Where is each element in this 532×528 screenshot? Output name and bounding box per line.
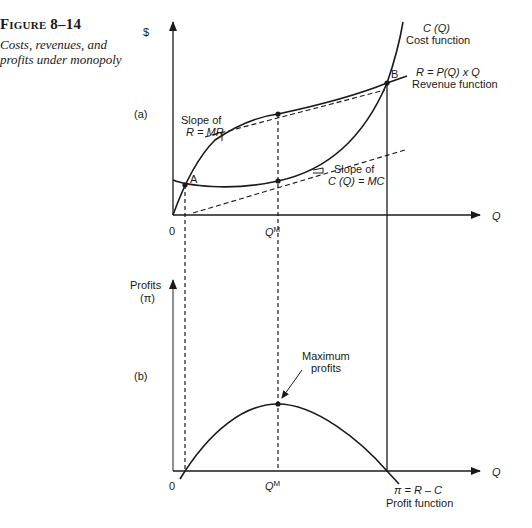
point-b-dot — [384, 80, 389, 85]
revenue-curve-desc: Revenue function — [412, 78, 498, 90]
panel-a: $ Q (a) 0 QM A B C (Q) Cost function R =… — [134, 22, 501, 471]
panel-a-x-axis-label: Q — [492, 210, 501, 222]
mr-note-line2: R = MR — [186, 126, 224, 138]
profit-curve-name: π = R – C — [394, 484, 442, 496]
revenue-curve — [173, 76, 407, 215]
monopoly-diagram: $ Q (a) 0 QM A B C (Q) Cost function R =… — [0, 0, 532, 528]
panel-b-x-axis-label: Q — [492, 466, 501, 478]
panel-b-origin-label: 0 — [169, 480, 175, 492]
panel-a-y-axis-label: $ — [143, 26, 149, 38]
mr-tangent-line — [205, 90, 385, 137]
panel-b-qm-label: QM — [265, 479, 281, 492]
mc-note-line2: C (Q) = MC — [328, 175, 385, 187]
panel-a-label: (a) — [134, 108, 147, 120]
max-profit-arrow — [282, 370, 302, 398]
mr-note-line1: Slope of — [181, 114, 222, 126]
revenue-curve-name: R = P(Q) x Q — [416, 66, 480, 78]
point-b-label: B — [391, 68, 398, 80]
panel-b-y-axis-label-line1: Profits — [130, 279, 162, 291]
mc-note-line1: Slope of — [334, 163, 375, 175]
panel-b: Profits (π) (b) Q 0 QM Maximum profits π… — [130, 279, 501, 509]
max-profit-note-line1: Maximum — [302, 350, 350, 362]
point-a-label: A — [190, 173, 198, 185]
max-profit-dot — [275, 401, 280, 406]
cost-curve-name: C (Q) — [423, 22, 450, 34]
panel-b-y-axis-label-line2: (π) — [140, 292, 155, 304]
cost-curve-desc: Cost function — [406, 34, 470, 46]
revenue-qm-dot — [275, 111, 280, 116]
profit-curve-desc: Profit function — [386, 497, 453, 509]
point-a-dot — [182, 182, 187, 187]
cost-qm-dot — [275, 178, 280, 183]
panel-a-origin-label: 0 — [169, 225, 175, 237]
panel-b-label: (b) — [134, 370, 147, 382]
profit-curve — [180, 404, 399, 484]
max-profit-note-line2: profits — [311, 362, 341, 374]
